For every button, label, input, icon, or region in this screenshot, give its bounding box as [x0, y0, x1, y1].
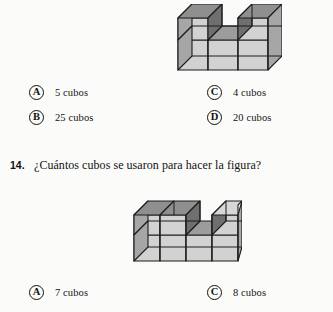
option-letter-b: B	[29, 110, 44, 125]
option-c-top[interactable]: C 4 cubos	[207, 85, 266, 100]
option-label-b: 25 cubos	[55, 112, 93, 123]
isometric-cube-figure-bottom	[130, 197, 242, 267]
option-label-a: 5 cubos	[55, 87, 88, 98]
option-label-d: 20 cubos	[233, 112, 271, 123]
cube-figure-top-svg	[172, 4, 282, 76]
cube-figure-bottom-svg	[130, 197, 242, 267]
option-d-top[interactable]: D 20 cubos	[207, 110, 271, 125]
option-letter-d: D	[207, 110, 222, 125]
isometric-cube-figure-top	[172, 4, 282, 76]
question-14: 14. ¿Cuántos cubos se usaron para hacer …	[10, 158, 261, 173]
option-a-q14[interactable]: A 7 cubos	[29, 285, 88, 300]
option-letter-c: C	[207, 285, 222, 300]
option-label-c: 8 cubos	[233, 287, 266, 298]
option-label-c: 4 cubos	[233, 87, 266, 98]
option-a-top[interactable]: A 5 cubos	[29, 85, 88, 100]
question-text: ¿Cuántos cubos se usaron para hacer la f…	[34, 158, 261, 173]
option-c-q14[interactable]: C 8 cubos	[207, 285, 266, 300]
option-label-a: 7 cubos	[55, 287, 88, 298]
option-b-top[interactable]: B 25 cubos	[29, 110, 93, 125]
option-letter-c: C	[207, 85, 222, 100]
question-number: 14.	[10, 159, 34, 171]
option-letter-a: A	[29, 85, 44, 100]
worksheet-page: A 5 cubos B 25 cubos C 4 cubos D 20 cubo…	[0, 0, 333, 312]
option-letter-a: A	[29, 285, 44, 300]
